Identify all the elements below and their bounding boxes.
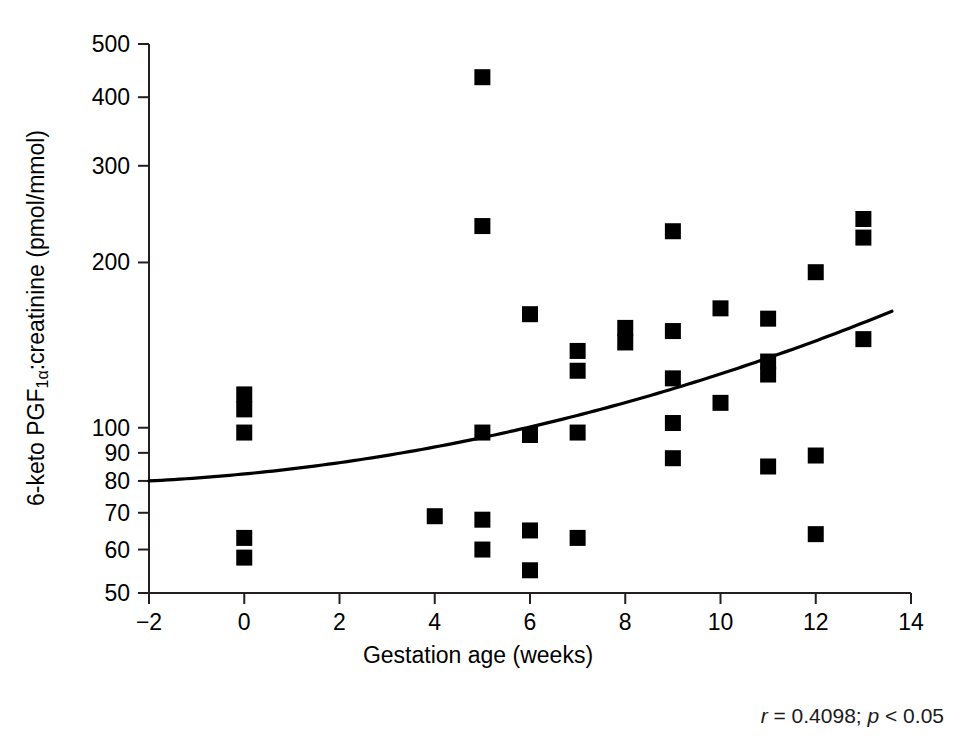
data-point-marker: [570, 363, 586, 379]
y-tick-label: 100: [92, 415, 130, 441]
x-tick-label: 8: [619, 609, 632, 635]
plot-canvas: 5060708090100200300400500 −202468101214 …: [0, 0, 967, 746]
x-tick-label: 0: [238, 609, 251, 635]
p-value-text: < 0.05: [879, 704, 944, 727]
y-tick-label: 50: [104, 580, 130, 606]
x-tick-label: 12: [803, 609, 829, 635]
y-axis-title-subscript: 1α: [34, 370, 51, 388]
p-symbol: p: [867, 704, 880, 727]
data-point-marker: [474, 218, 490, 234]
y-tick-label: 200: [92, 249, 130, 275]
y-tick-label: 400: [92, 84, 130, 110]
x-tick-label: −2: [136, 609, 162, 635]
y-tick-label: 70: [104, 500, 130, 526]
data-point-marker: [665, 223, 681, 239]
data-point-marker: [236, 401, 252, 417]
x-tick-label: 2: [333, 609, 346, 635]
data-point-marker: [855, 211, 871, 227]
data-point-marker: [522, 562, 538, 578]
data-point-marker: [570, 530, 586, 546]
data-point-marker: [760, 367, 776, 383]
data-point-marker: [474, 69, 490, 85]
data-point-marker: [665, 323, 681, 339]
x-axis-title: Gestation age (weeks): [363, 642, 593, 668]
data-point-marker: [570, 425, 586, 441]
data-point-marker: [808, 526, 824, 542]
data-point-marker: [522, 522, 538, 538]
svg-text:6-keto PGF1α:creatinine (pmol/: 6-keto PGF1α:creatinine (pmol/mmol): [23, 130, 51, 506]
y-axis-title: 6-keto PGF1α:creatinine (pmol/mmol): [23, 130, 51, 506]
data-point-marker: [522, 306, 538, 322]
data-point-marker: [808, 264, 824, 280]
data-point-marker: [617, 320, 633, 336]
data-point-marker: [665, 450, 681, 466]
data-point-marker: [617, 334, 633, 350]
y-axis-title-suffix: :creatinine (pmol/mmol): [23, 130, 49, 370]
data-point-marker: [236, 386, 252, 402]
data-points: [236, 69, 871, 578]
data-point-marker: [474, 542, 490, 558]
y-tick-label: 90: [104, 440, 130, 466]
x-tick-label: 6: [524, 609, 537, 635]
y-axis-title-prefix: 6-keto PGF: [23, 388, 49, 506]
x-tick-label: 14: [898, 609, 924, 635]
data-point-marker: [855, 230, 871, 246]
x-tick-label: 10: [708, 609, 734, 635]
data-point-marker: [236, 425, 252, 441]
scatter-plot-figure: 5060708090100200300400500 −202468101214 …: [0, 0, 967, 746]
data-point-marker: [665, 415, 681, 431]
data-point-marker: [427, 508, 443, 524]
data-point-marker: [236, 530, 252, 546]
data-point-marker: [665, 370, 681, 386]
data-point-marker: [474, 512, 490, 528]
correlation-annotation: r = 0.4098; p < 0.05: [761, 704, 944, 727]
data-point-marker: [855, 331, 871, 347]
data-point-marker: [522, 427, 538, 443]
x-tick-label: 4: [428, 609, 441, 635]
data-point-marker: [760, 458, 776, 474]
svg-text:r = 0.4098; p < 0.05: r = 0.4098; p < 0.05: [761, 704, 944, 727]
r-value-text: = 0.4098;: [768, 704, 868, 727]
data-point-marker: [570, 343, 586, 359]
y-axis-ticks: 5060708090100200300400500: [92, 31, 149, 606]
y-tick-label: 500: [92, 31, 130, 57]
x-axis-ticks: −202468101214: [136, 593, 924, 635]
data-point-marker: [474, 425, 490, 441]
data-point-marker: [808, 448, 824, 464]
y-tick-label: 300: [92, 153, 130, 179]
y-tick-label: 80: [104, 468, 130, 494]
data-point-marker: [713, 395, 729, 411]
data-point-marker: [760, 311, 776, 327]
data-point-marker: [713, 300, 729, 316]
fit-curve-path: [149, 311, 892, 481]
y-tick-label: 60: [104, 537, 130, 563]
data-point-marker: [236, 550, 252, 566]
trend-curve: [149, 311, 892, 481]
